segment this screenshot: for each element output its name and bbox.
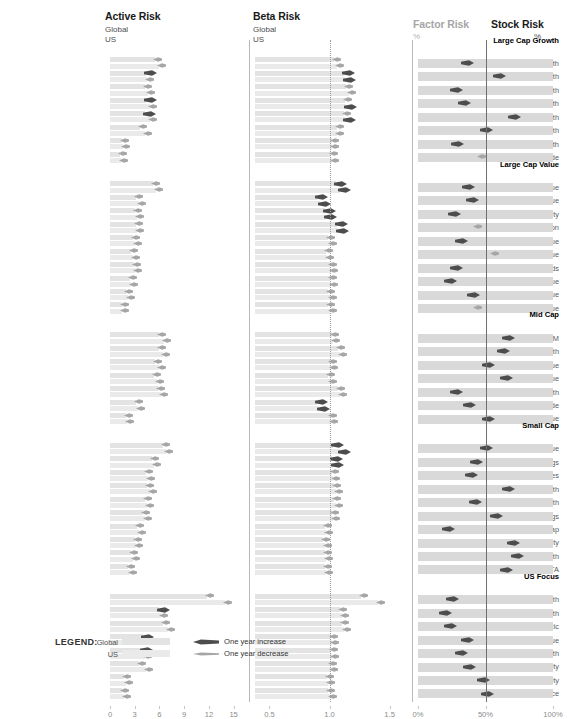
beta-risk-bar-global: [255, 564, 325, 569]
decrease-marker: [143, 84, 152, 89]
beta-risk-tick-label: 1.0: [315, 710, 345, 719]
active-risk-bar-us: [110, 543, 136, 548]
active-risk-bar-global: [110, 57, 155, 62]
beta-risk-bar-global: [255, 84, 346, 89]
stock-risk-tickmark: [486, 706, 487, 709]
beta-risk-bar-global: [255, 57, 334, 62]
active-risk-bar-global: [110, 607, 159, 612]
decrease-marker: [334, 489, 343, 494]
active-risk-bar-global: [110, 373, 154, 378]
decrease-marker: [330, 158, 339, 163]
factor-risk-unit: %: [413, 32, 420, 41]
beta-risk-bar-us: [255, 530, 326, 535]
active-risk-bar-global: [110, 621, 163, 626]
active-risk-bar-us: [110, 188, 156, 193]
active-risk-bar-us: [110, 201, 139, 206]
legend-increase-marker: [193, 639, 219, 645]
decrease-marker: [145, 503, 154, 508]
increase-marker: [338, 449, 351, 455]
increase-marker: [463, 402, 476, 408]
increase-marker: [469, 499, 482, 505]
active-risk-bar-global: [110, 222, 136, 227]
beta-risk-bar-us: [255, 215, 326, 220]
active-risk-sub-us: US: [105, 35, 116, 44]
beta-risk-bar-us: [255, 117, 345, 122]
beta-risk-bar-global: [255, 249, 326, 254]
decrease-marker: [154, 187, 163, 192]
decrease-marker: [340, 613, 349, 618]
increase-marker: [502, 486, 515, 492]
decrease-marker: [136, 406, 145, 411]
active-risk-bar-us: [110, 268, 135, 273]
active-risk-bar-global: [110, 359, 155, 364]
decrease-marker: [157, 365, 166, 370]
beta-risk-bar-us: [255, 503, 336, 508]
beta-risk-sub-global: Global: [253, 25, 276, 34]
increase-marker: [144, 70, 157, 76]
active-risk-tickmark: [159, 706, 160, 709]
increase-marker: [481, 691, 494, 697]
decrease-marker: [133, 241, 142, 246]
decrease-marker: [326, 302, 335, 307]
active-risk-title: Active Risk: [105, 10, 161, 22]
increase-marker: [342, 70, 355, 76]
increase-marker: [336, 228, 349, 234]
active-risk-bar-global: [110, 470, 146, 475]
decrease-marker: [153, 57, 162, 62]
active-risk-tick-label: 15: [219, 710, 249, 719]
decrease-marker: [326, 372, 335, 377]
increase-marker: [482, 362, 495, 368]
decrease-marker: [120, 308, 129, 313]
active-risk-bar-global: [110, 483, 147, 488]
decrease-marker: [326, 235, 335, 240]
beta-risk-tick-label: 1.5: [375, 710, 405, 719]
increase-marker: [317, 406, 330, 412]
beta-risk-bar-us: [255, 158, 332, 163]
decrease-marker: [473, 224, 482, 229]
decrease-marker: [159, 613, 168, 618]
decrease-marker: [124, 413, 133, 418]
stock-risk-tick-label: 50%: [471, 710, 501, 719]
decrease-marker: [133, 268, 142, 273]
active-risk-bar-us: [110, 516, 145, 521]
active-risk-bar-global: [110, 594, 207, 599]
active-risk-bar-us: [110, 228, 137, 233]
increase-marker: [507, 540, 520, 546]
beta-risk-bar-global: [255, 111, 344, 116]
decrease-marker: [118, 151, 127, 156]
increase-marker: [344, 104, 357, 110]
active-risk-bar-us: [110, 64, 159, 69]
decrease-marker: [330, 510, 339, 515]
increase-marker: [500, 375, 513, 381]
beta-risk-bar-global: [255, 98, 345, 103]
beta-risk-bar-global: [255, 181, 336, 186]
decrease-marker: [141, 510, 150, 515]
legend-us-swatch: [122, 650, 170, 657]
active-risk-bar-global: [110, 497, 145, 502]
active-risk-bar-us: [110, 77, 147, 82]
legend-decrease-label: One year decrease: [224, 649, 289, 658]
active-risk-bar-global: [110, 71, 146, 76]
decrease-marker: [161, 442, 170, 447]
decrease-marker: [126, 295, 135, 300]
active-risk-bar-global: [110, 510, 143, 515]
decrease-marker: [137, 201, 146, 206]
increase-marker: [477, 677, 490, 683]
stock-risk-tick-label: 100%: [538, 710, 568, 719]
active-risk-bar-global: [110, 84, 145, 89]
decrease-marker: [156, 386, 165, 391]
increase-marker: [157, 607, 170, 613]
decrease-marker: [131, 255, 140, 260]
beta-risk-sub-us: US: [253, 35, 264, 44]
active-risk-bar-global: [110, 386, 158, 391]
increase-marker: [334, 181, 347, 187]
decrease-marker: [131, 556, 140, 561]
decrease-marker: [148, 104, 157, 109]
beta-risk-bar-global: [255, 400, 317, 405]
decrease-marker: [157, 332, 166, 337]
active-risk-bar-global: [110, 98, 146, 103]
beta-risk-bar-us: [255, 570, 326, 575]
active-risk-bar-global: [110, 249, 131, 254]
decrease-marker: [205, 593, 214, 598]
beta-risk-bar-global: [255, 359, 330, 364]
